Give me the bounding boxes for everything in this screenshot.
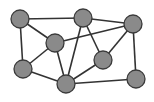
node-D — [46, 34, 64, 52]
node-A — [11, 10, 29, 28]
edges — [20, 18, 136, 84]
node-H — [127, 70, 145, 88]
graph-diagram — [0, 0, 154, 102]
node-F — [14, 60, 32, 78]
node-B — [74, 9, 92, 27]
node-C — [124, 15, 142, 33]
node-E — [94, 51, 112, 69]
node-G — [57, 75, 75, 93]
edge-G-H — [66, 79, 136, 84]
